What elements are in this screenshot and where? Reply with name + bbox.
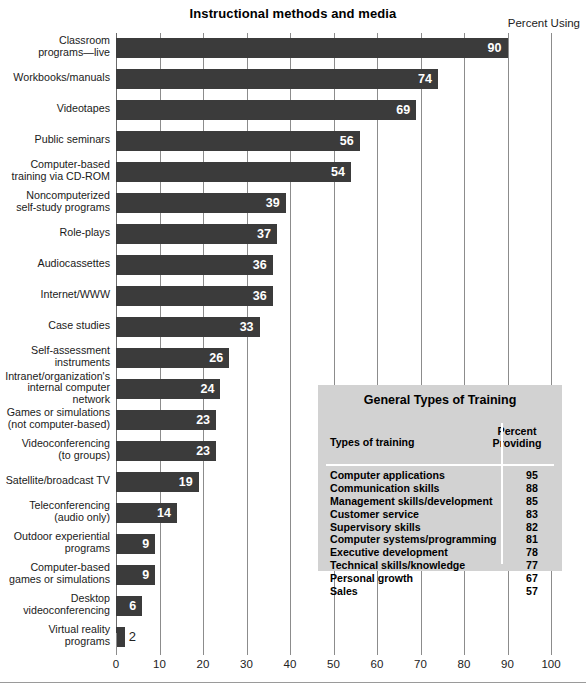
tick-label-30: 30 bbox=[227, 658, 267, 670]
category-label-column: Classroomprograms—liveWorkbooks/manualsV… bbox=[0, 33, 110, 633]
bar-value-label: 14 bbox=[153, 505, 171, 521]
tick-label-10: 10 bbox=[140, 658, 180, 670]
inset-row-type: Executive development bbox=[330, 546, 448, 558]
bar-value-label: 36 bbox=[249, 288, 267, 304]
inset-table-row: Executive development78 bbox=[318, 546, 562, 559]
inset-row-percent: 85 bbox=[503, 495, 561, 507]
bar-value-label: 56 bbox=[336, 133, 354, 149]
tick-mark-50 bbox=[334, 633, 335, 655]
inset-row-type: Sales bbox=[330, 585, 358, 597]
bar-value-label: 9 bbox=[131, 536, 149, 552]
tick-mark-70 bbox=[421, 633, 422, 655]
inset-table-title: General Types of Training bbox=[318, 385, 562, 407]
category-label-line: (to groups) bbox=[0, 450, 110, 462]
category-label-line: Workbooks/manuals bbox=[0, 72, 110, 84]
category-label: Desktopvideoconferencing bbox=[0, 593, 110, 616]
bar-row: 6 bbox=[116, 596, 551, 616]
category-label-line: programs bbox=[0, 636, 110, 648]
inset-header-rule bbox=[326, 464, 554, 466]
inset-col-header-percent-line1: Percent bbox=[482, 425, 552, 437]
inset-table-row: Customer service83 bbox=[318, 508, 562, 521]
category-label-line: (audio only) bbox=[0, 512, 110, 524]
category-label-line: programs bbox=[0, 543, 110, 555]
inset-row-percent: 81 bbox=[503, 533, 561, 545]
bar-value-label: 6 bbox=[118, 598, 136, 614]
category-label: Intranet/organization'sinternal computer… bbox=[0, 371, 110, 406]
inset-row-type: Management skills/development bbox=[330, 495, 493, 507]
bar-row: 36 bbox=[116, 255, 551, 275]
bar-value-label: 69 bbox=[392, 102, 410, 118]
category-label: Public seminars bbox=[0, 134, 110, 146]
tick-mark-80 bbox=[464, 633, 465, 655]
inset-row-type: Computer systems/programming bbox=[330, 533, 497, 545]
inset-table-header: Types of training Percent Providing bbox=[318, 414, 562, 450]
chart-title: Instructional methods and media bbox=[0, 6, 586, 21]
category-label: Audiocassettes bbox=[0, 258, 110, 270]
tick-label-90: 90 bbox=[488, 658, 528, 670]
category-label: Outdoor experientialprograms bbox=[0, 531, 110, 554]
tick-mark-40 bbox=[290, 633, 291, 655]
tick-label-20: 20 bbox=[183, 658, 223, 670]
category-label: Computer-basedgames or simulations bbox=[0, 562, 110, 585]
inset-row-percent: 57 bbox=[503, 585, 561, 597]
inset-row-percent: 67 bbox=[503, 572, 561, 584]
inset-row-type: Customer service bbox=[330, 508, 419, 520]
category-label: Internet/WWW bbox=[0, 289, 110, 301]
category-label: Self-assessmentinstruments bbox=[0, 345, 110, 368]
inset-row-percent: 83 bbox=[503, 508, 561, 520]
inset-table-row: Communication skills88 bbox=[318, 482, 562, 495]
percent-using-caption: Percent Using bbox=[508, 17, 580, 29]
bar bbox=[116, 100, 416, 120]
bar-value-label: 26 bbox=[205, 350, 223, 366]
inset-table-row: Sales57 bbox=[318, 585, 562, 598]
category-label-line: videoconferencing bbox=[0, 605, 110, 617]
inset-col-header-types: Types of training bbox=[330, 436, 415, 448]
bar bbox=[116, 69, 438, 89]
tick-mark-90 bbox=[508, 633, 509, 655]
tick-label-0: 0 bbox=[96, 658, 136, 670]
bar-row: 36 bbox=[116, 286, 551, 306]
category-label-line: Audiocassettes bbox=[0, 258, 110, 270]
category-label: Videoconferencing(to groups) bbox=[0, 438, 110, 461]
inset-col-header-percent-line2: Providing bbox=[482, 437, 552, 449]
category-label-line: Internet/WWW bbox=[0, 289, 110, 301]
bar-value-label: 74 bbox=[414, 71, 432, 87]
chart-figure: Instructional methods and media Percent … bbox=[0, 0, 586, 693]
tick-mark-0 bbox=[116, 633, 117, 655]
category-label: Noncomputerizedself-study programs bbox=[0, 190, 110, 213]
bar-row: 37 bbox=[116, 224, 551, 244]
inset-table-row: Computer applications95 bbox=[318, 469, 562, 482]
inset-table-row: Technical skills/knowledge77 bbox=[318, 559, 562, 572]
inset-table-body: Computer applications95Communication ski… bbox=[318, 469, 562, 598]
inset-row-percent: 78 bbox=[503, 546, 561, 558]
bar bbox=[116, 162, 351, 182]
category-label-line: Satellite/broadcast TV bbox=[0, 475, 110, 487]
inset-row-percent: 77 bbox=[503, 559, 561, 571]
bar-value-label: 90 bbox=[484, 40, 502, 56]
inset-col-header-percent: Percent Providing bbox=[482, 425, 552, 449]
bar-value-label: 23 bbox=[192, 443, 210, 459]
category-label-line: (not computer-based) bbox=[0, 419, 110, 431]
category-label: Workbooks/manuals bbox=[0, 72, 110, 84]
x-axis-tick-labels: 0102030405060708090100 bbox=[0, 658, 586, 674]
bar bbox=[116, 131, 360, 151]
tick-mark-10 bbox=[160, 633, 161, 655]
tick-mark-100 bbox=[551, 633, 552, 655]
inset-table-row: Computer systems/programming81 bbox=[318, 533, 562, 546]
category-label-line: self-study programs bbox=[0, 202, 110, 214]
inset-row-type: Technical skills/knowledge bbox=[330, 559, 465, 571]
inset-row-type: Computer applications bbox=[330, 469, 445, 481]
bar-row: 54 bbox=[116, 162, 551, 182]
inset-row-percent: 82 bbox=[503, 521, 561, 533]
tick-mark-30 bbox=[247, 633, 248, 655]
bar-value-label: 19 bbox=[175, 474, 193, 490]
tick-label-80: 80 bbox=[444, 658, 484, 670]
category-label: Games or simulations(not computer-based) bbox=[0, 407, 110, 430]
category-label-line: instruments bbox=[0, 357, 110, 369]
inset-row-percent: 88 bbox=[503, 482, 561, 494]
inset-row-type: Personal growth bbox=[330, 572, 413, 584]
tick-label-60: 60 bbox=[357, 658, 397, 670]
bar-value-label: 54 bbox=[327, 164, 345, 180]
category-label: Classroomprograms—live bbox=[0, 35, 110, 58]
bar-value-label: 23 bbox=[192, 412, 210, 428]
